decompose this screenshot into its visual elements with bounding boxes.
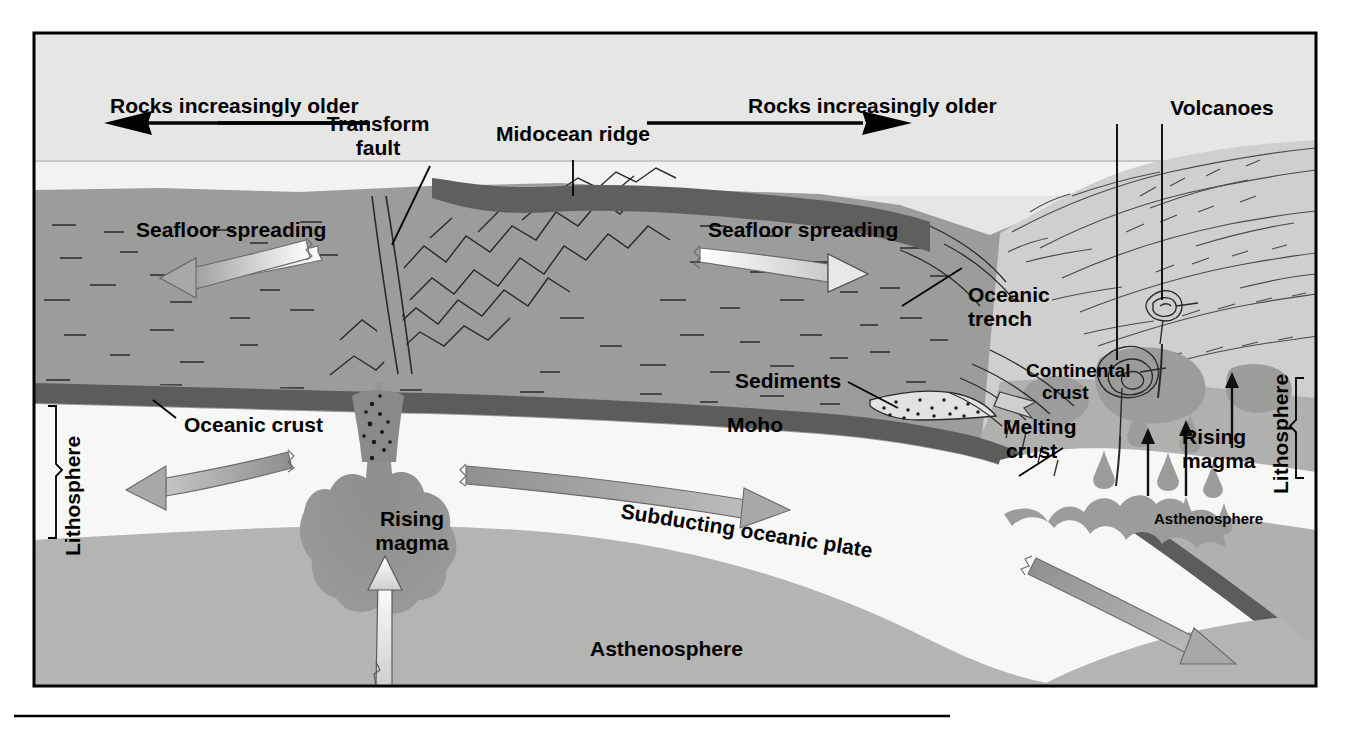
label-seafloor-spreading-left: Seafloor spreading bbox=[136, 218, 326, 241]
label-rocks-older-right: Rocks increasingly older bbox=[748, 94, 997, 117]
cross-section-diagram: Rocks increasingly older Rocks increasin… bbox=[0, 0, 1349, 731]
label-lithosphere-right: Lithosphere bbox=[1269, 374, 1292, 494]
label-midocean-ridge: Midocean ridge bbox=[496, 122, 650, 145]
label-asthenosphere-center: Asthenosphere bbox=[590, 637, 743, 660]
figure-container: Rocks increasingly older Rocks increasin… bbox=[0, 0, 1349, 731]
label-oceanic-trench-line1: Oceanic bbox=[968, 283, 1050, 306]
label-sediments: Sediments bbox=[735, 369, 841, 392]
label-oceanic-trench-line2: trench bbox=[968, 307, 1032, 330]
label-asthenosphere-right: Asthenosphere bbox=[1154, 510, 1263, 527]
label-melting-crust-line2: crust bbox=[1006, 439, 1057, 462]
label-rising-magma-right-line2: magma bbox=[1182, 449, 1256, 472]
label-rising-magma-right-line1: Rising bbox=[1182, 425, 1246, 448]
label-rocks-older-left: Rocks increasingly older bbox=[110, 94, 359, 117]
arrow-rising-magma-shaft bbox=[376, 578, 392, 686]
label-melting-crust-line1: Melting bbox=[1003, 415, 1077, 438]
label-rising-magma-center-line2: magma bbox=[375, 531, 449, 554]
label-oceanic-crust: Oceanic crust bbox=[184, 413, 323, 436]
label-continental-crust-line1: Continental bbox=[1026, 360, 1131, 381]
label-moho: Moho bbox=[727, 413, 783, 436]
label-transform-fault-line2: fault bbox=[356, 136, 400, 159]
label-lithosphere-left: Lithosphere bbox=[61, 436, 84, 556]
label-continental-crust-line2: crust bbox=[1042, 382, 1089, 403]
label-rising-magma-center-line1: Rising bbox=[380, 507, 444, 530]
label-volcanoes: Volcanoes bbox=[1170, 96, 1273, 119]
label-seafloor-spreading-right: Seafloor spreading bbox=[708, 218, 898, 241]
label-transform-fault-line1: Transform bbox=[327, 112, 430, 135]
